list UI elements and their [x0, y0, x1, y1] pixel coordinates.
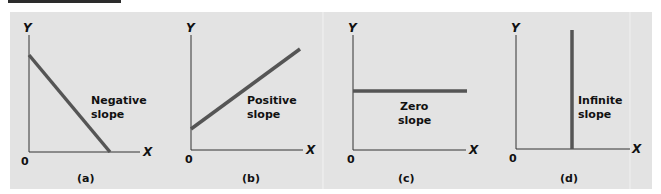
annotation-line-2: slope [247, 108, 280, 121]
annotation-line-2: slope [578, 108, 611, 121]
panel-c: Y X 0 Zero slope (c) [347, 21, 479, 185]
origin-label: 0 [21, 155, 29, 168]
panel-caption: (c) [398, 172, 415, 185]
panel-a: Y X 0 Negative slope (a) [21, 21, 153, 185]
x-axis-label: X [468, 143, 479, 157]
x-axis-label: X [142, 145, 153, 159]
panel-d: Y X 0 Infinite slope (d) [509, 21, 642, 185]
panel-caption: (d) [560, 172, 578, 185]
annotation-line-2: slope [91, 108, 124, 121]
y-axis-label: Y [348, 21, 358, 35]
panel-b: Y X 0 Positive slope (b) [185, 21, 316, 185]
annotation-line-1: Negative [91, 94, 147, 107]
x-axis-label: X [305, 143, 316, 157]
x-axis-label: X [631, 142, 642, 156]
origin-label: 0 [509, 152, 517, 165]
y-axis-label: Y [511, 21, 521, 35]
annotation-line-1: Zero [400, 100, 429, 113]
y-axis-label: Y [186, 21, 196, 35]
origin-label: 0 [347, 153, 355, 166]
origin-label: 0 [185, 153, 193, 166]
annotation-line-2: slope [398, 114, 431, 127]
annotation-line-1: Positive [247, 94, 297, 107]
positive-slope-line [191, 49, 300, 129]
y-axis-label: Y [23, 21, 33, 35]
panel-caption: (b) [242, 172, 260, 185]
panel-caption: (a) [77, 172, 94, 185]
annotation-line-1: Infinite [578, 94, 622, 107]
slope-diagrams: Y X 0 Negative slope (a) Y X 0 Positive … [0, 0, 661, 194]
